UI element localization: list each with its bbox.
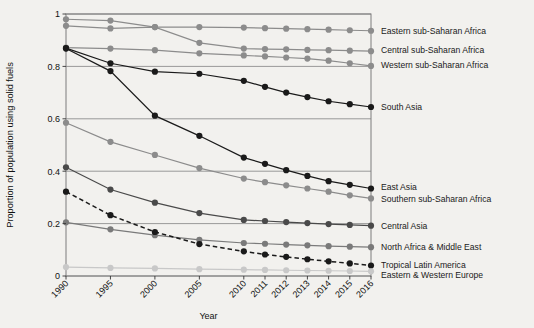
data-point xyxy=(107,17,113,23)
data-point xyxy=(63,264,69,270)
data-point xyxy=(107,60,113,66)
data-point xyxy=(283,241,289,247)
data-point xyxy=(326,27,332,33)
data-point xyxy=(107,212,113,218)
data-point xyxy=(368,48,374,54)
data-point xyxy=(326,178,332,184)
data-point xyxy=(241,154,247,160)
data-point xyxy=(283,46,289,52)
data-point xyxy=(283,167,289,173)
data-point xyxy=(262,46,268,52)
data-point xyxy=(241,240,247,246)
data-point xyxy=(262,267,268,273)
data-point xyxy=(262,251,268,257)
data-point xyxy=(283,90,289,96)
data-point xyxy=(283,182,289,188)
data-point xyxy=(196,241,202,247)
data-point xyxy=(304,55,310,61)
series-label: Tropical Latin America xyxy=(381,260,466,270)
data-point xyxy=(152,265,158,271)
data-point xyxy=(241,267,247,273)
series-label: East Asia xyxy=(381,182,417,192)
data-point xyxy=(152,24,158,30)
data-point xyxy=(241,25,247,31)
data-point xyxy=(347,27,353,33)
data-point xyxy=(347,222,353,228)
series-label: South Asia xyxy=(381,102,422,112)
data-point xyxy=(304,267,310,273)
data-point xyxy=(347,268,353,274)
data-point xyxy=(63,189,69,195)
data-point xyxy=(107,186,113,192)
data-point xyxy=(63,120,69,126)
data-point xyxy=(326,98,332,104)
data-point xyxy=(368,185,374,191)
data-point xyxy=(241,52,247,58)
data-point xyxy=(152,113,158,119)
data-point xyxy=(283,219,289,225)
data-point xyxy=(63,16,69,22)
data-point xyxy=(241,248,247,254)
data-point xyxy=(304,256,310,262)
data-point xyxy=(196,71,202,77)
y-tick-label: 0.8 xyxy=(47,62,60,72)
y-tick-label: 0.2 xyxy=(47,219,60,229)
data-point xyxy=(152,229,158,235)
data-point xyxy=(262,218,268,224)
data-point xyxy=(196,40,202,46)
data-point xyxy=(152,69,158,75)
data-point xyxy=(368,223,374,229)
y-tick-label: 0.4 xyxy=(47,167,60,177)
data-point xyxy=(326,221,332,227)
data-point xyxy=(304,220,310,226)
series-label: Central Asia xyxy=(381,221,428,231)
data-point xyxy=(347,60,353,66)
data-point xyxy=(368,63,374,69)
data-point xyxy=(107,45,113,51)
x-axis-title: Year xyxy=(199,311,217,321)
series-label: Eastern & Western Europe xyxy=(381,270,483,280)
y-tick-label: 1 xyxy=(55,9,60,19)
data-point xyxy=(368,262,374,268)
data-point xyxy=(196,24,202,30)
data-point xyxy=(262,84,268,90)
data-point xyxy=(241,78,247,84)
data-point xyxy=(326,47,332,53)
data-point xyxy=(107,25,113,31)
data-point xyxy=(241,45,247,51)
data-point xyxy=(347,48,353,54)
data-point xyxy=(283,26,289,32)
data-point xyxy=(283,254,289,260)
data-point xyxy=(262,241,268,247)
data-point xyxy=(368,195,374,201)
data-point xyxy=(326,258,332,264)
data-point xyxy=(304,173,310,179)
data-point xyxy=(63,23,69,29)
data-point xyxy=(347,182,353,188)
data-point xyxy=(63,219,69,225)
data-point xyxy=(304,242,310,248)
data-point xyxy=(152,200,158,206)
data-point xyxy=(304,185,310,191)
data-point xyxy=(347,244,353,250)
data-point xyxy=(368,28,374,34)
data-point xyxy=(196,210,202,216)
data-point xyxy=(152,152,158,158)
y-tick-label: 0.6 xyxy=(47,114,60,124)
data-point xyxy=(347,192,353,198)
series-label: North Africa & Middle East xyxy=(381,242,482,252)
y-tick-label: 0 xyxy=(55,271,60,281)
series-label: Southern sub-Saharan Africa xyxy=(381,194,492,204)
data-point xyxy=(347,260,353,266)
data-point xyxy=(262,161,268,167)
data-point xyxy=(262,53,268,59)
data-point xyxy=(326,58,332,64)
data-point xyxy=(107,68,113,74)
data-point xyxy=(152,47,158,53)
series-label: Western sub-Saharan Africa xyxy=(381,60,489,70)
data-point xyxy=(196,165,202,171)
data-point xyxy=(241,217,247,223)
data-point xyxy=(347,101,353,107)
data-point xyxy=(304,94,310,100)
data-point xyxy=(262,179,268,185)
